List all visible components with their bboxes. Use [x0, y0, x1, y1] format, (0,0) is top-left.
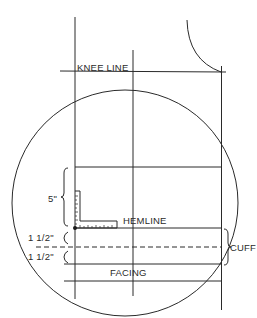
cuff-lower-measure-label: 1 1/2"	[28, 252, 54, 262]
detail-circle	[12, 90, 238, 316]
crotch-curve	[187, 20, 221, 72]
cuff-upper-measure-label: 1 1/2"	[28, 233, 54, 243]
five-inch-label: 5"	[48, 194, 57, 204]
cuff-upper-brace	[64, 232, 68, 244]
cuff-lower-brace	[64, 251, 68, 263]
knee-line-label: KNEE LINE	[77, 63, 128, 73]
l-square-ruler	[73, 191, 117, 230]
corner-dot	[73, 226, 77, 230]
five-inch-brace	[61, 168, 68, 226]
facing-label: FACING	[110, 268, 147, 278]
cuff-label: CUFF	[230, 243, 256, 253]
hemline-label: HEMLINE	[123, 216, 167, 226]
